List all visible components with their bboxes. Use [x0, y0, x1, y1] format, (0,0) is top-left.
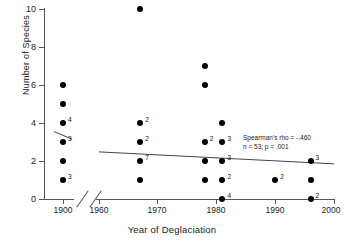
- annotation-line-rho: Spearman's rho = -.460: [243, 133, 311, 142]
- x-tick-label-1980: 1980: [196, 206, 236, 215]
- data-point: [308, 196, 314, 202]
- data-point: [137, 158, 143, 164]
- x-tick-1960: [99, 199, 100, 204]
- y-tick-2: [39, 161, 44, 162]
- data-point-count-label: 7: [145, 155, 149, 162]
- data-point: [137, 120, 143, 126]
- data-point: [219, 177, 225, 183]
- data-point: [219, 139, 225, 145]
- x-tick-label-1960: 1960: [79, 206, 119, 215]
- data-point: [60, 177, 66, 183]
- data-point-count-label: 2: [316, 193, 320, 200]
- data-point: [60, 82, 66, 88]
- y-axis-line: [44, 8, 45, 200]
- y-tick-10: [39, 9, 44, 10]
- data-point: [137, 6, 143, 12]
- data-point: [219, 120, 225, 126]
- y-tick-4: [39, 123, 44, 124]
- y-tick-label-10: 10: [12, 5, 36, 14]
- data-point: [202, 158, 208, 164]
- data-point-count-label: 2: [280, 174, 284, 181]
- x-tick-label-1900: 1900: [43, 206, 83, 215]
- data-point-count-label: 3: [68, 174, 72, 181]
- y-axis-title: Number of Species: [21, 0, 31, 125]
- data-point-count-label: 2: [227, 174, 231, 181]
- axis-break-slash-left: [76, 191, 88, 208]
- data-point: [202, 177, 208, 183]
- data-point-count-label: 2: [145, 117, 149, 124]
- data-point-count-label: 2: [210, 136, 214, 143]
- x-tick-1990: [275, 199, 276, 204]
- data-point: [60, 158, 66, 164]
- y-tick-label-2: 2: [12, 157, 36, 166]
- data-point-count-label: 2: [145, 136, 149, 143]
- data-point-count-label: 3: [68, 136, 72, 143]
- data-point: [60, 139, 66, 145]
- x-tick-1900: [63, 199, 64, 204]
- y-tick-label-8: 8: [12, 43, 36, 52]
- data-point: [137, 139, 143, 145]
- data-point: [202, 139, 208, 145]
- x-tick-label-2000: 2000: [311, 206, 344, 215]
- y-tick-0: [39, 199, 44, 200]
- y-tick-6: [39, 85, 44, 86]
- x-tick-1970: [157, 199, 158, 204]
- data-point-count-label: 4: [68, 117, 72, 124]
- x-axis-title: Year of Deglaciation: [0, 224, 344, 235]
- data-point: [308, 177, 314, 183]
- x-tick-label-1970: 1970: [137, 206, 177, 215]
- y-tick-8: [39, 47, 44, 48]
- y-tick-label-6: 6: [12, 81, 36, 90]
- data-point: [202, 63, 208, 69]
- y-tick-label-4: 4: [12, 119, 36, 128]
- x-tick-2000: [334, 199, 335, 204]
- data-point-count-label: 4: [227, 193, 231, 200]
- x-axis-line-left-panel: [44, 199, 74, 200]
- data-point-count-label: 3: [316, 155, 320, 162]
- data-point: [137, 177, 143, 183]
- trend-line-main: [99, 152, 334, 164]
- data-point: [202, 82, 208, 88]
- data-point-count-label: 3: [227, 155, 231, 162]
- data-point: [219, 196, 225, 202]
- annotation-line-n-p: n = 53; p = .001: [243, 142, 311, 151]
- data-point: [219, 158, 225, 164]
- data-point-count-label: 3: [227, 136, 231, 143]
- data-point: [272, 177, 278, 183]
- x-tick-label-1990: 1990: [255, 206, 295, 215]
- y-tick-label-0: 0: [12, 195, 36, 204]
- data-point: [60, 120, 66, 126]
- scatter-plot-figure: Number of Species Year of Deglaciation 0…: [0, 0, 344, 245]
- data-point: [308, 158, 314, 164]
- data-point: [60, 101, 66, 107]
- x-tick-1980: [216, 199, 217, 204]
- statistics-annotation: Spearman's rho = -.460 n = 53; p = .001: [243, 133, 311, 152]
